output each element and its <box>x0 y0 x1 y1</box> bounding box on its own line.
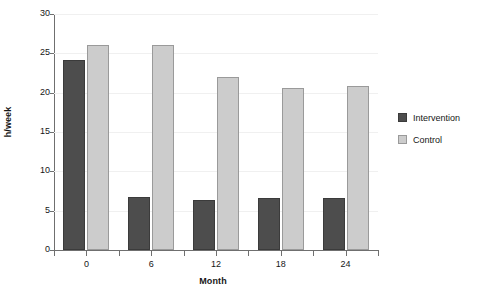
bar-control-month-6 <box>152 45 174 250</box>
x-tick-mark <box>151 251 152 256</box>
y-tick: 10 <box>0 171 50 172</box>
x-tick-mark <box>184 251 185 256</box>
y-tick-label: 15 <box>22 127 50 136</box>
x-tick-mark <box>216 251 217 256</box>
y-tick-label: 10 <box>22 166 50 175</box>
y-tick-label: 20 <box>22 88 50 97</box>
y-tick-label: 0 <box>22 245 50 254</box>
bar-chart-figure: h/week Month 051015202530 06121824 Inter… <box>0 0 479 302</box>
y-tick: 15 <box>0 132 50 133</box>
x-tick-mark <box>378 251 379 256</box>
y-tick-mark <box>50 14 54 15</box>
gridline <box>54 14 378 15</box>
y-tick: 5 <box>0 211 50 212</box>
legend-swatch-control-icon <box>398 135 407 144</box>
x-tick-mark <box>54 251 55 256</box>
x-tick-mark <box>346 251 347 256</box>
legend-label-intervention: Intervention <box>413 113 460 123</box>
x-tick-label: 24 <box>326 259 366 269</box>
x-tick-mark <box>313 251 314 256</box>
x-tick-mark <box>86 251 87 256</box>
bar-intervention-month-18 <box>258 198 280 250</box>
y-tick-mark <box>50 171 54 172</box>
y-tick: 20 <box>0 93 50 94</box>
y-tick-mark <box>50 93 54 94</box>
bar-control-month-12 <box>217 77 239 250</box>
x-tick-label: 0 <box>66 259 106 269</box>
bar-control-month-18 <box>282 88 304 250</box>
y-axis-title: h/week <box>3 92 13 152</box>
x-tick-label: 18 <box>261 259 301 269</box>
legend-label-control: Control <box>413 135 442 145</box>
x-tick-mark <box>281 251 282 256</box>
bar-intervention-month-12 <box>193 200 215 250</box>
x-tick-mark <box>119 251 120 256</box>
y-tick-mark <box>50 211 54 212</box>
bar-intervention-month-6 <box>128 197 150 250</box>
y-tick: 0 <box>0 250 50 251</box>
y-tick: 30 <box>0 14 50 15</box>
x-axis-title: Month <box>163 276 263 286</box>
y-tick: 25 <box>0 53 50 54</box>
legend-item-intervention: Intervention <box>398 112 479 123</box>
y-tick-label: 25 <box>22 48 50 57</box>
y-tick-label: 5 <box>22 206 50 215</box>
legend-item-control: Control <box>398 134 479 145</box>
bar-intervention-month-24 <box>323 198 345 250</box>
y-tick-mark <box>50 53 54 54</box>
x-tick-mark <box>248 251 249 256</box>
y-tick-label: 30 <box>22 9 50 18</box>
legend-swatch-intervention-icon <box>398 113 407 122</box>
y-tick-mark <box>50 132 54 133</box>
bar-control-month-24 <box>347 86 369 250</box>
x-tick-label: 6 <box>131 259 171 269</box>
bar-intervention-month-0 <box>63 60 85 250</box>
chart-legend: Intervention Control <box>398 112 479 156</box>
bar-control-month-0 <box>87 45 109 250</box>
x-tick-label: 12 <box>196 259 236 269</box>
